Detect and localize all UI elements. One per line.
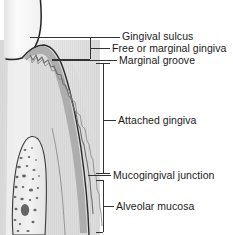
label-alveolar-mucosa: Alveolar mucosa bbox=[116, 201, 194, 212]
label-attached-gingiva: Attached gingiva bbox=[118, 115, 196, 126]
label-mucogingival-junction: Mucogingival junction bbox=[113, 170, 214, 181]
label-marginal-groove: Marginal groove bbox=[119, 55, 195, 66]
gingival-anatomy-figure: Gingival sulcus Free or marginal gingiva… bbox=[0, 0, 233, 235]
label-free-or-marginal-gingiva: Free or marginal gingiva bbox=[112, 43, 226, 54]
label-gingival-sulcus: Gingival sulcus bbox=[122, 31, 193, 42]
